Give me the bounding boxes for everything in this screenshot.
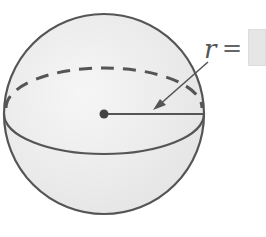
- sphere-diagram: r =: [0, 0, 266, 237]
- answer-input-box[interactable]: [248, 29, 266, 66]
- radius-label: r: [204, 34, 218, 64]
- center-point: [100, 110, 109, 119]
- equals-sign: =: [222, 34, 242, 62]
